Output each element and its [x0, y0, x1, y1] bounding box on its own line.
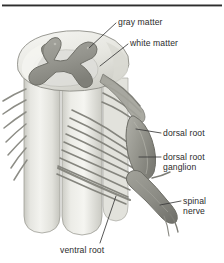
label-ventral-root: ventral root	[60, 245, 104, 255]
spinal-cord-body	[24, 70, 128, 235]
dorsal-root-ganglion	[126, 116, 156, 179]
top-rule	[2, 5, 222, 7]
label-dorsal-root: dorsal root	[163, 128, 205, 138]
left-rootlets	[3, 89, 27, 180]
label-white-matter: white matter	[130, 38, 178, 48]
spinal-cord-figure: gray matter white matter dorsal root dor…	[0, 0, 224, 263]
label-spinal-nerve: spinal nerve	[183, 196, 206, 216]
label-gray-matter: gray matter	[118, 17, 163, 27]
label-dorsal-root-ganglion: dorsal root ganglion	[163, 152, 205, 172]
